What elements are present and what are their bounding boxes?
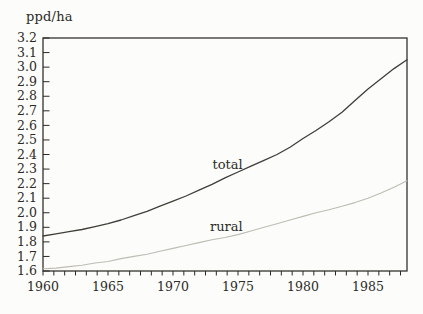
- x-tick-label: 1960: [27, 279, 59, 294]
- y-tick-label: 1.7: [17, 249, 37, 264]
- y-tick-label: 2.5: [17, 132, 37, 147]
- series-label-rural: rural: [210, 219, 243, 234]
- series-label-total: total: [213, 157, 243, 172]
- y-tick-label: 1.9: [17, 219, 37, 234]
- y-tick-label: 2.9: [17, 74, 37, 89]
- y-tick-label: 2.1: [17, 190, 37, 205]
- x-tick-label: 1980: [287, 279, 319, 294]
- y-tick-label: 2.8: [17, 88, 37, 103]
- y-tick-label: 2.4: [17, 147, 37, 162]
- x-tick-label: 1985: [352, 279, 384, 294]
- plot-frame: [43, 38, 407, 271]
- x-tick-label: 1965: [92, 279, 124, 294]
- x-tick-label: 1975: [222, 279, 254, 294]
- y-tick-label: 1.6: [17, 263, 37, 278]
- y-tick-label: 2.6: [17, 118, 37, 133]
- y-tick-label: 3.0: [17, 59, 37, 74]
- y-tick-label: 3.2: [17, 30, 37, 45]
- chart-canvas: 3.23.13.02.92.82.72.62.52.42.32.22.12.01…: [0, 0, 423, 314]
- y-tick-label: 2.0: [17, 205, 37, 220]
- total-line: [43, 60, 407, 236]
- y-tick-label: 3.1: [17, 45, 37, 60]
- y-tick-label: 2.2: [17, 176, 37, 191]
- chart: ppd/ha 3.23.13.02.92.82.72.62.52.42.32.2…: [0, 0, 423, 314]
- y-tick-label: 1.8: [17, 234, 37, 249]
- y-tick-label: 2.3: [17, 161, 37, 176]
- y-tick-label: 2.7: [17, 103, 37, 118]
- x-tick-label: 1970: [157, 279, 189, 294]
